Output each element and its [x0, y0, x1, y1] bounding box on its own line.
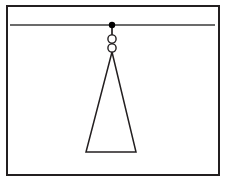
diagram-canvas: [0, 0, 226, 181]
pivot-point-dot: [109, 22, 115, 28]
upper-ring-link-circle: [108, 35, 116, 43]
suspended-triangle-diagram: [0, 0, 226, 181]
lower-ring-link-circle: [108, 44, 116, 52]
suspended-triangle-body: [86, 52, 136, 152]
